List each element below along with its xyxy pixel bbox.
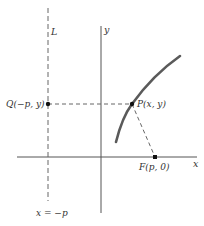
point-q — [46, 102, 50, 106]
x-axis-label: x — [193, 158, 199, 169]
point-f-label: F(p, 0) — [138, 162, 170, 172]
diagram-svg: L y x Q(−p, y) P(x, y) F(p, 0) x = −p — [0, 0, 204, 226]
directrix-label: L — [50, 26, 57, 37]
point-q-label: Q(−p, y) — [6, 99, 45, 109]
point-f — [153, 155, 157, 159]
directrix-equation: x = −p — [36, 208, 68, 218]
dashed-segment-pf — [132, 104, 155, 157]
parabola-diagram: L y x Q(−p, y) P(x, y) F(p, 0) x = −p — [0, 0, 204, 226]
point-p — [130, 102, 134, 106]
point-p-label: P(x, y) — [136, 99, 166, 109]
y-axis-label: y — [103, 24, 110, 35]
